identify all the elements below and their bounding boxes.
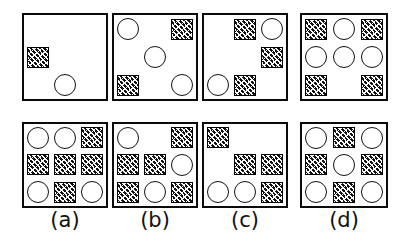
crosshatched-square-token-icon: [54, 182, 76, 203]
circle-token-icon: [54, 127, 76, 149]
crosshatched-square-token-icon: [234, 154, 256, 175]
empty-slot: [117, 46, 139, 68]
cell-r1-c2: [51, 15, 78, 43]
empty-slot: [144, 18, 166, 40]
crosshatched-square-token-icon: [81, 154, 103, 175]
crosshatched-square-token-icon: [361, 19, 383, 40]
circle-token-icon: [305, 46, 327, 68]
cell-r1-c1: [114, 15, 141, 43]
cell-r2-c1: [24, 43, 51, 71]
figure-canvas: (a)(b)(c)(d): [0, 0, 410, 246]
empty-slot: [81, 74, 103, 96]
panel-problem-2: [112, 13, 198, 101]
option-caption-2: (c): [202, 210, 288, 231]
cell-r1-c3: [169, 15, 196, 43]
panel-grid: [24, 15, 106, 99]
cell-r3-c2: [231, 179, 258, 206]
cell-r2-c3: [169, 151, 196, 178]
cell-r1-c1: [114, 124, 141, 151]
crosshatched-square-token-icon: [261, 182, 283, 203]
crosshatched-square-token-icon: [171, 182, 193, 203]
empty-slot: [333, 74, 355, 96]
cell-r2-c2: [231, 43, 258, 71]
cell-r1-c1: [204, 15, 231, 43]
crosshatched-square-token-icon: [361, 75, 383, 96]
cell-r2-c3: [169, 43, 196, 71]
crosshatched-square-token-icon: [261, 154, 283, 175]
cell-r2-c1: [302, 151, 330, 178]
cell-r1-c3: [358, 15, 386, 43]
crosshatched-square-token-icon: [171, 127, 193, 148]
cell-r3-c3: [259, 179, 286, 206]
cell-r1-c2: [231, 15, 258, 43]
panel-grid: [204, 15, 286, 99]
empty-slot: [54, 46, 76, 68]
panel-grid: [302, 124, 386, 206]
cell-r2-c2: [231, 151, 258, 178]
cell-r2-c2: [141, 43, 168, 71]
cell-r3-c2: [330, 179, 358, 206]
empty-slot: [261, 127, 283, 149]
panel-grid: [114, 124, 196, 206]
option-caption-0: (a): [22, 210, 108, 231]
circle-token-icon: [234, 181, 256, 203]
crosshatched-square-token-icon: [305, 19, 327, 40]
cell-r1-c3: [358, 124, 386, 151]
cell-r3-c3: [79, 71, 106, 99]
cell-r2-c2: [51, 43, 78, 71]
circle-token-icon: [305, 127, 327, 149]
empty-slot: [234, 127, 256, 149]
circle-token-icon: [117, 127, 139, 149]
cell-r3-c3: [169, 71, 196, 99]
circle-token-icon: [305, 181, 327, 203]
cell-r3-c2: [141, 179, 168, 206]
empty-slot: [27, 18, 49, 40]
circle-token-icon: [333, 154, 355, 176]
panel-option-c[interactable]: [202, 122, 288, 208]
panel-option-a[interactable]: [22, 122, 108, 208]
cell-r1-c1: [24, 124, 51, 151]
empty-slot: [27, 74, 49, 96]
panel-grid: [114, 15, 196, 99]
cell-r1-c2: [231, 124, 258, 151]
cell-r1-c2: [51, 124, 78, 151]
cell-r2-c1: [114, 43, 141, 71]
cell-r3-c1: [114, 71, 141, 99]
cell-r2-c1: [114, 151, 141, 178]
crosshatched-square-token-icon: [261, 47, 283, 68]
crosshatched-square-token-icon: [54, 154, 76, 175]
cell-r2-c2: [51, 151, 78, 178]
cell-r3-c2: [141, 71, 168, 99]
cell-r2-c3: [259, 43, 286, 71]
crosshatched-square-token-icon: [234, 75, 256, 96]
circle-token-icon: [171, 154, 193, 176]
option-caption-3: (d): [300, 210, 388, 231]
crosshatched-square-token-icon: [81, 127, 103, 148]
circle-token-icon: [361, 46, 383, 68]
cell-r2-c1: [204, 43, 231, 71]
circle-token-icon: [261, 18, 283, 40]
panel-option-d[interactable]: [300, 122, 388, 208]
cell-r3-c2: [51, 71, 78, 99]
cell-r2-c2: [330, 151, 358, 178]
cell-r3-c1: [24, 71, 51, 99]
cell-r2-c3: [358, 151, 386, 178]
cell-r3-c1: [302, 71, 330, 99]
option-caption-1: (b): [112, 210, 198, 231]
cell-r3-c2: [231, 71, 258, 99]
panel-problem-3: [202, 13, 288, 101]
cell-r2-c1: [24, 151, 51, 178]
circle-token-icon: [361, 127, 383, 149]
cell-r1-c3: [79, 15, 106, 43]
circle-token-icon: [144, 46, 166, 68]
panel-grid: [302, 15, 386, 99]
cell-r1-c2: [141, 15, 168, 43]
cell-r1-c2: [330, 15, 358, 43]
empty-slot: [144, 127, 166, 149]
cell-r1-c3: [169, 124, 196, 151]
cell-r1-c1: [204, 124, 231, 151]
panel-grid: [204, 124, 286, 206]
panel-option-b[interactable]: [112, 122, 198, 208]
empty-slot: [207, 154, 229, 176]
crosshatched-square-token-icon: [234, 19, 256, 40]
